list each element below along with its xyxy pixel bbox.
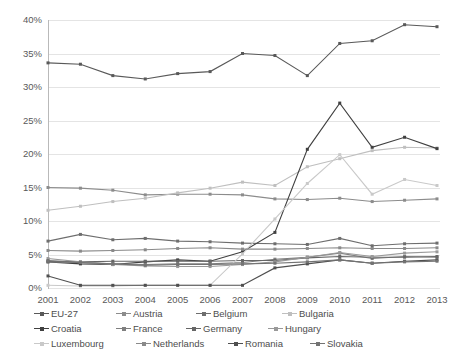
data-point (111, 200, 114, 203)
data-point (176, 263, 179, 266)
series-line (48, 155, 437, 286)
data-point (371, 262, 374, 265)
series-line (48, 25, 437, 79)
data-point (306, 148, 309, 151)
data-point (338, 237, 341, 240)
data-point (144, 77, 147, 80)
data-point (403, 178, 406, 181)
data-point (338, 255, 341, 258)
data-point (241, 52, 244, 55)
data-point (209, 260, 212, 263)
data-point (144, 237, 147, 240)
data-point (144, 197, 147, 200)
series-bulgaria (47, 146, 439, 212)
data-point (273, 266, 276, 269)
data-point (273, 262, 276, 265)
data-point (273, 184, 276, 187)
data-point (403, 136, 406, 139)
data-point (436, 184, 439, 187)
data-point (241, 262, 244, 265)
data-point (144, 284, 147, 287)
data-point (111, 238, 114, 241)
data-point (241, 252, 244, 255)
series-luxembourg (47, 153, 439, 287)
legend-label: Hungary (285, 323, 321, 334)
legend-marker-icon (310, 339, 325, 348)
data-point (241, 242, 244, 245)
legend-marker-icon (34, 339, 49, 348)
data-point (47, 274, 50, 277)
legend-label: Slovakia (327, 338, 363, 349)
data-point (209, 246, 212, 249)
legend-label: Luxembourg (51, 338, 104, 349)
data-point (209, 263, 212, 266)
data-point (436, 242, 439, 245)
legend-label: Germany (203, 323, 242, 334)
legend-item-croatia[interactable]: Croatia (34, 321, 116, 336)
legend-marker-icon (34, 309, 49, 318)
data-point (403, 23, 406, 26)
data-point (176, 191, 179, 194)
data-point (371, 255, 374, 258)
data-point (436, 197, 439, 200)
data-point (209, 70, 212, 73)
data-point (144, 260, 147, 263)
data-point (209, 187, 212, 190)
data-point (436, 25, 439, 28)
data-point (338, 157, 341, 160)
data-point (111, 260, 114, 263)
legend-item-hungary[interactable]: Hungary (268, 321, 348, 336)
data-point (111, 74, 114, 77)
series-line (48, 103, 437, 264)
data-point (403, 252, 406, 255)
data-point (436, 246, 439, 249)
legend-item-germany[interactable]: Germany (186, 321, 268, 336)
data-point (306, 256, 309, 259)
legend-label: Belgium (213, 308, 247, 319)
data-point (209, 240, 212, 243)
legend-item-slovakia[interactable]: Slovakia (310, 336, 390, 351)
data-point (371, 146, 374, 149)
data-point (241, 259, 244, 262)
legend-item-netherlands[interactable]: Netherlands (136, 336, 228, 351)
data-point (338, 251, 341, 254)
legend-item-romania[interactable]: Romania (228, 336, 310, 351)
legend-item-luxembourg[interactable]: Luxembourg (34, 336, 136, 351)
data-point (371, 39, 374, 42)
legend-item-eu-27[interactable]: EU-27 (34, 306, 116, 321)
legend-marker-icon (268, 324, 283, 333)
data-point (209, 193, 212, 196)
data-point (111, 249, 114, 252)
data-point (338, 102, 341, 105)
data-point (306, 198, 309, 201)
data-point (338, 197, 341, 200)
data-point (273, 231, 276, 234)
legend-marker-icon (228, 339, 243, 348)
data-point (403, 260, 406, 263)
data-point (79, 250, 82, 253)
data-point (47, 249, 50, 252)
legend-label: Netherlands (153, 338, 204, 349)
series-austria (47, 186, 439, 203)
legend-marker-icon (136, 339, 151, 348)
data-point (306, 182, 309, 185)
data-point (403, 146, 406, 149)
legend-item-belgium[interactable]: Belgium (196, 306, 282, 321)
data-point (176, 284, 179, 287)
series-eu-27 (47, 23, 439, 80)
data-point (273, 197, 276, 200)
data-point (79, 284, 82, 287)
legend-item-bulgaria[interactable]: Bulgaria (282, 306, 371, 321)
data-point (403, 242, 406, 245)
data-point (371, 193, 374, 196)
legend-item-france[interactable]: France (116, 321, 186, 336)
legend-label: Romania (245, 338, 283, 349)
data-point (79, 233, 82, 236)
legend-item-austria[interactable]: Austria (116, 306, 196, 321)
data-point (111, 262, 114, 265)
data-point (47, 259, 50, 262)
data-point (403, 199, 406, 202)
data-point (79, 205, 82, 208)
